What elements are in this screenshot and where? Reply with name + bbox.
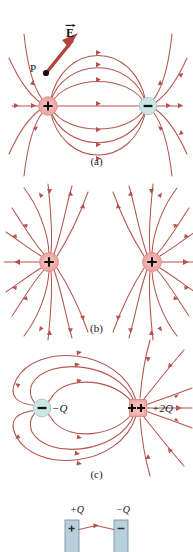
- panel-a-diagram: [0, 0, 193, 170]
- field-vector-label: E: [66, 27, 74, 39]
- panel-d-diagram: [0, 500, 193, 552]
- negative-charge-a: [139, 97, 156, 114]
- panel-d-parallel-plates: [0, 500, 193, 552]
- positive-charge-b-right: [143, 253, 162, 272]
- point-p-marker: [43, 70, 49, 76]
- positive-charge-c: [128, 400, 147, 417]
- caption-b: (b): [0, 322, 193, 334]
- positive-charge-a: [39, 97, 57, 115]
- negative-charge-label: −Q: [52, 403, 67, 414]
- panel-a-dipole: [0, 0, 193, 170]
- positive-charge-label: +2Q: [152, 403, 173, 414]
- right-plate-label: −Q: [116, 505, 130, 515]
- electric-field-lines-figure: E P (a): [0, 0, 193, 552]
- vector-overbar-arrow-icon: [65, 22, 76, 27]
- panel-d-flow-arrow: [94, 523, 99, 528]
- positive-charge-b-left: [40, 253, 59, 272]
- right-plate: [114, 520, 128, 552]
- negative-charge-c: [33, 399, 51, 417]
- caption-a: (a): [0, 155, 193, 167]
- panel-b-field-lines: [4, 184, 193, 340]
- point-p-label: P: [30, 63, 36, 74]
- caption-c: (c): [0, 468, 193, 480]
- panel-b-diagram: [0, 170, 193, 340]
- panel-b-like-charges: [0, 170, 193, 340]
- left-plate: [65, 520, 79, 552]
- left-plate-label: +Q: [70, 505, 84, 515]
- field-vector-letter: E: [66, 26, 74, 40]
